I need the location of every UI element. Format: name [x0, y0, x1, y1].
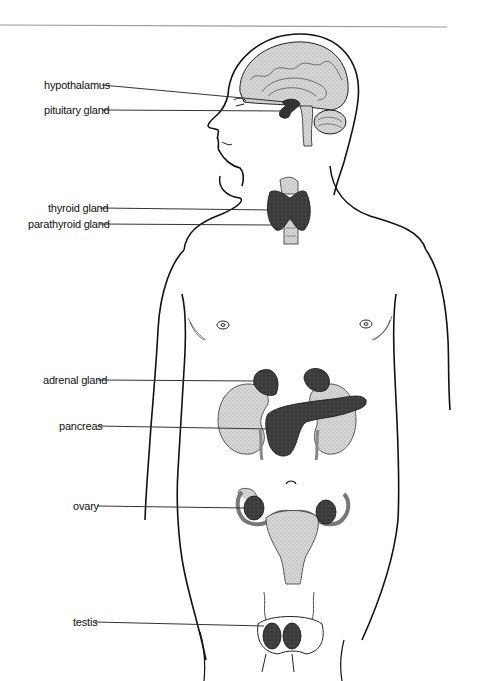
chest-details	[188, 316, 392, 340]
label-thyroid-gland: thyroid gland	[48, 202, 108, 214]
abdominal-glands	[218, 368, 366, 460]
leader-testis	[95, 622, 264, 626]
thyroid-trachea	[268, 177, 311, 244]
leader-parathyroid	[100, 224, 272, 225]
leader-pituitary	[102, 110, 284, 111]
endocrine-diagram: hypothalamus pituitary gland thyroid gla…	[0, 0, 481, 681]
leader-thyroid	[100, 208, 272, 210]
navel	[286, 481, 296, 484]
reproductive-female	[238, 488, 349, 584]
label-testis: testis	[73, 616, 97, 628]
leader-ovary	[97, 506, 245, 508]
brain	[234, 42, 348, 146]
label-parathyroid-gland: parathyroid gland	[28, 218, 110, 230]
anatomy-illustration	[0, 0, 481, 681]
reproductive-male	[258, 592, 324, 672]
top-rule	[0, 25, 447, 27]
label-adrenal-gland: adrenal gland	[43, 374, 107, 386]
label-pancreas: pancreas	[59, 420, 103, 432]
leader-lines	[95, 85, 286, 626]
label-pituitary-gland: pituitary gland	[44, 104, 110, 116]
leader-adrenal	[98, 380, 256, 381]
label-ovary: ovary	[73, 500, 99, 512]
label-hypothalamus: hypothalamus	[44, 79, 110, 91]
